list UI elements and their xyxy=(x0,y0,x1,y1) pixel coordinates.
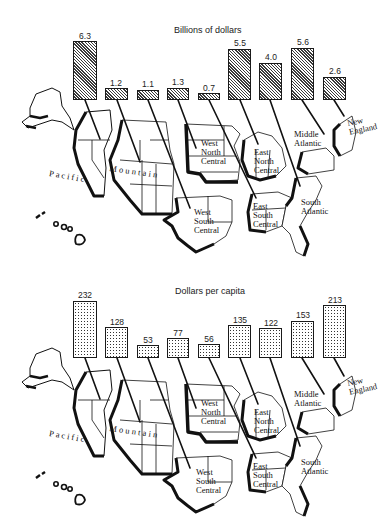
bar-west-north-central xyxy=(167,88,189,100)
bar-value-label: 122 xyxy=(256,318,286,328)
bar-value-label: 232 xyxy=(70,290,100,300)
bar-value-label: 6.3 xyxy=(70,31,100,41)
bar-value-label: 0.7 xyxy=(194,83,224,93)
bar-value-label: 213 xyxy=(320,295,350,305)
region-label-west-north-central: West North Central xyxy=(201,399,226,426)
region-label-east-north-central: East North Central xyxy=(254,148,279,175)
bar-value-label: 1.3 xyxy=(163,77,193,87)
region-label-east-south-central: East South Central xyxy=(253,202,278,229)
region-label-middle-atlantic: Middle Atlantic xyxy=(294,130,321,148)
bar-pacific xyxy=(73,301,97,358)
bar-new-england xyxy=(323,77,346,100)
bar-value-label: 135 xyxy=(225,315,255,325)
region-label-middle-atlantic: Middle Atlantic xyxy=(294,390,321,408)
bar-south-atlantic xyxy=(259,63,282,100)
chart-title: Dollars per capita xyxy=(175,286,245,296)
bar-pacific xyxy=(73,41,97,100)
bar-new-england xyxy=(323,305,346,358)
region-label-west-south-central: West South Central xyxy=(194,208,219,235)
chart-title: Billions of dollars xyxy=(174,25,242,35)
bar-middle-atlantic xyxy=(291,321,314,358)
bar-value-label: 128 xyxy=(102,317,132,327)
alaska-shape xyxy=(22,88,74,130)
bar-east-south-central xyxy=(198,93,220,100)
bar-west-south-central xyxy=(137,90,159,100)
bar-mountain xyxy=(105,327,128,358)
bar-value-label: 77 xyxy=(163,328,193,338)
bar-value-label: 1.2 xyxy=(101,78,131,88)
bar-value-label: 5.5 xyxy=(225,38,255,48)
region-label-east-north-central: East North Central xyxy=(254,408,279,435)
bar-west-north-central xyxy=(167,338,189,358)
bar-south-atlantic xyxy=(259,328,282,358)
panel-per-capita: Dollars per capita 232 128 53 77 56 135 … xyxy=(0,260,392,531)
region-label-east-south-central: East South Central xyxy=(253,462,278,489)
bar-east-south-central xyxy=(198,344,220,358)
bar-mountain xyxy=(105,88,128,100)
bar-value-label: 153 xyxy=(288,310,318,320)
bar-east-north-central xyxy=(228,49,251,100)
region-label-south-atlantic: South Atlantic xyxy=(301,458,328,476)
bar-value-label: 4.0 xyxy=(256,52,286,62)
bar-value-label: 53 xyxy=(133,335,163,345)
bar-value-label: 56 xyxy=(194,334,224,344)
bar-value-label: 5.6 xyxy=(288,37,318,47)
bar-value-label: 1.1 xyxy=(133,79,163,89)
bar-west-south-central xyxy=(137,345,159,358)
region-label-west-south-central: West South Central xyxy=(196,468,221,495)
bar-middle-atlantic xyxy=(291,48,314,100)
bar-east-north-central xyxy=(228,325,251,358)
region-label-west-north-central: West North Central xyxy=(201,139,226,166)
panel-billions: Billions of dollars 6.3 1.2 1.1 1.3 0.7 … xyxy=(0,0,392,266)
south-atlantic-shape xyxy=(282,176,322,256)
region-label-south-atlantic: South Atlantic xyxy=(301,198,328,216)
bar-value-label: 2.6 xyxy=(320,66,350,76)
